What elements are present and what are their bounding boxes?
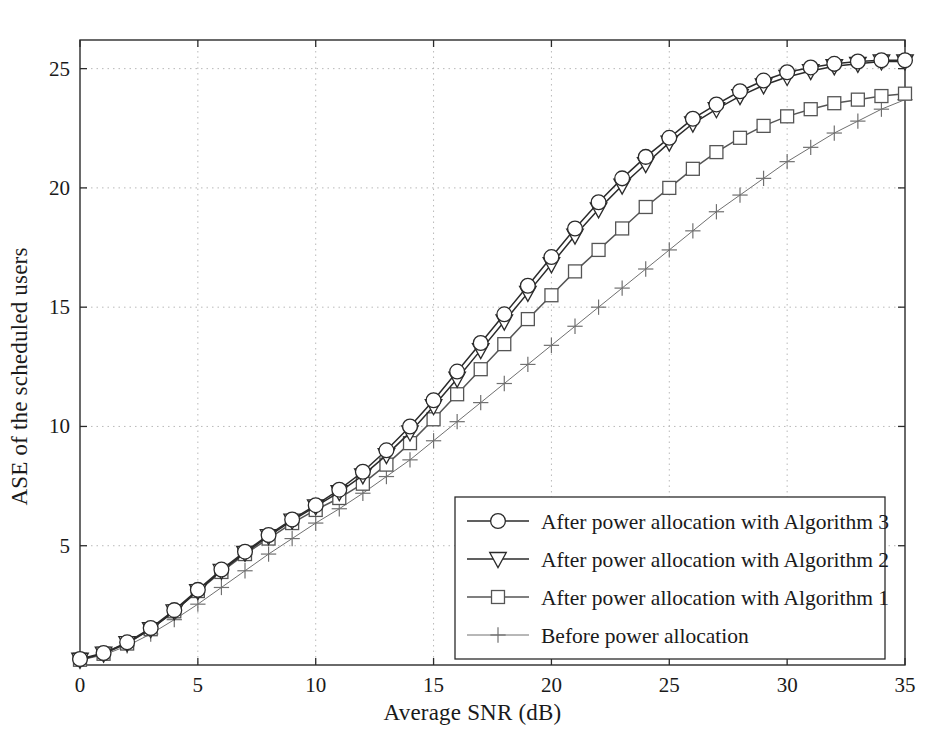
x-tick-label: 10 bbox=[305, 673, 326, 698]
marker-circle bbox=[591, 195, 606, 210]
marker-square bbox=[639, 201, 652, 214]
x-tick-label: 15 bbox=[423, 673, 444, 698]
marker-square bbox=[710, 146, 723, 159]
marker-circle bbox=[497, 307, 512, 322]
legend-label: After power allocation with Algorithm 3 bbox=[541, 510, 889, 534]
marker-circle bbox=[238, 544, 253, 559]
marker-circle bbox=[709, 97, 724, 112]
marker-circle bbox=[803, 60, 818, 75]
marker-square bbox=[616, 222, 629, 235]
marker-circle bbox=[426, 393, 441, 408]
marker-square bbox=[851, 93, 864, 106]
marker-circle bbox=[379, 443, 394, 458]
marker-square bbox=[474, 363, 487, 376]
y-tick-label: 20 bbox=[36, 175, 70, 200]
marker-square bbox=[804, 103, 817, 116]
marker-square bbox=[875, 90, 888, 103]
marker-square bbox=[451, 388, 464, 401]
marker-square bbox=[545, 289, 558, 302]
figure-container: After power allocation with Algorithm 3A… bbox=[0, 0, 945, 753]
marker-circle bbox=[568, 221, 583, 236]
x-tick-label: 30 bbox=[777, 673, 798, 698]
x-tick-label: 20 bbox=[541, 673, 562, 698]
marker-circle bbox=[308, 498, 323, 513]
y-tick-label: 25 bbox=[36, 56, 70, 81]
marker-circle bbox=[733, 84, 748, 99]
marker-circle bbox=[332, 482, 347, 497]
marker-circle bbox=[450, 364, 465, 379]
marker-circle bbox=[214, 562, 229, 577]
marker-square bbox=[663, 181, 676, 194]
marker-circle bbox=[520, 278, 535, 293]
marker-circle bbox=[120, 635, 135, 650]
marker-circle bbox=[143, 621, 158, 636]
marker-circle bbox=[544, 250, 559, 265]
marker-square bbox=[498, 338, 511, 351]
marker-circle bbox=[167, 603, 182, 618]
marker-square bbox=[686, 162, 699, 175]
marker-square bbox=[828, 97, 841, 110]
marker-circle bbox=[685, 111, 700, 126]
marker-square bbox=[521, 313, 534, 326]
marker-square bbox=[569, 265, 582, 278]
x-tick-label: 35 bbox=[895, 673, 916, 698]
x-axis-title: Average SNR (dB) bbox=[0, 700, 945, 726]
marker-circle bbox=[874, 53, 889, 68]
legend-label: Before power allocation bbox=[541, 624, 749, 648]
marker-circle bbox=[403, 419, 418, 434]
marker-circle bbox=[491, 514, 506, 529]
marker-circle bbox=[780, 65, 795, 80]
x-tick-label: 5 bbox=[193, 673, 204, 698]
legend-label: After power allocation with Algorithm 2 bbox=[541, 548, 889, 572]
marker-square bbox=[492, 591, 505, 604]
marker-circle bbox=[473, 336, 488, 351]
marker-square bbox=[757, 119, 770, 132]
marker-circle bbox=[261, 528, 276, 543]
marker-circle bbox=[96, 646, 111, 661]
marker-circle bbox=[615, 171, 630, 186]
marker-circle bbox=[756, 73, 771, 88]
marker-circle bbox=[898, 53, 913, 68]
y-tick-label: 15 bbox=[36, 295, 70, 320]
marker-circle bbox=[662, 130, 677, 145]
y-axis-title: ASE of the scheduled users bbox=[0, 0, 40, 753]
x-tick-label: 0 bbox=[75, 673, 86, 698]
marker-circle bbox=[285, 512, 300, 527]
marker-circle bbox=[827, 56, 842, 71]
y-tick-label: 5 bbox=[36, 533, 70, 558]
marker-circle bbox=[850, 54, 865, 69]
chart-canvas: After power allocation with Algorithm 3A… bbox=[0, 0, 945, 753]
marker-circle bbox=[73, 652, 88, 667]
marker-square bbox=[781, 110, 794, 123]
y-tick-label: 10 bbox=[36, 414, 70, 439]
marker-circle bbox=[190, 582, 205, 597]
marker-square bbox=[592, 243, 605, 256]
x-tick-label: 25 bbox=[659, 673, 680, 698]
marker-circle bbox=[638, 150, 653, 165]
marker-square bbox=[734, 131, 747, 144]
legend-label: After power allocation with Algorithm 1 bbox=[541, 586, 889, 610]
marker-circle bbox=[355, 464, 370, 479]
legend[interactable]: After power allocation with Algorithm 3A… bbox=[455, 497, 889, 659]
marker-square bbox=[899, 87, 912, 100]
